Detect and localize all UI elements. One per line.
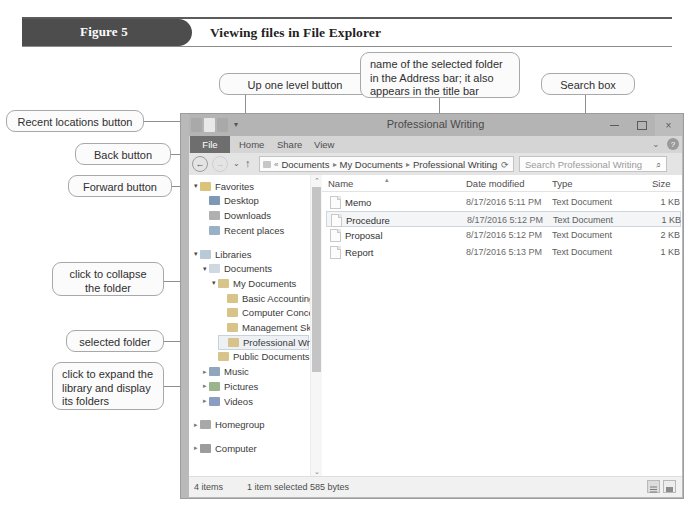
callout-text: Recent locations button xyxy=(18,116,133,128)
tree-item-libraries[interactable]: ▾Libraries xyxy=(191,247,309,262)
tree-item-public-documents[interactable]: Public Documents xyxy=(209,350,309,365)
content-area: ▾FavoritesDesktopDownloadsRecent places▾… xyxy=(189,175,682,477)
tab-share[interactable]: Share xyxy=(277,139,302,150)
close-button[interactable]: × xyxy=(655,114,682,136)
search-input[interactable]: Search Professional Writing ⌕ xyxy=(519,156,667,172)
forward-button[interactable]: → xyxy=(212,156,228,172)
callout-collapse-folder: click to collapse the folder xyxy=(52,262,164,296)
maximize-icon xyxy=(637,121,647,130)
tree-item-documents[interactable]: ▾Documents xyxy=(200,262,309,277)
expand-twisty-icon[interactable]: ▸ xyxy=(200,368,209,376)
callout-text: Back button xyxy=(94,149,152,161)
minimize-icon xyxy=(610,125,619,126)
status-item-count: 4 items xyxy=(194,482,223,492)
collapse-twisty-icon[interactable]: ▾ xyxy=(209,279,218,287)
text-document-icon xyxy=(330,196,341,209)
tree-item-recent-places[interactable]: Recent places xyxy=(200,223,309,238)
window-inner: ▾ Professional Writing × File Home Share… xyxy=(189,114,682,497)
file-size: 1 KB xyxy=(644,197,680,207)
tree-item-label: Documents xyxy=(224,263,272,274)
expand-twisty-icon[interactable]: ▸ xyxy=(200,382,209,390)
file-row[interactable]: Procedure8/17/2016 5:12 PMText Document1… xyxy=(326,211,681,227)
tab-view[interactable]: View xyxy=(314,139,334,150)
folder-icon xyxy=(227,323,238,332)
expand-twisty-icon[interactable]: ▸ xyxy=(191,421,200,429)
refresh-icon[interactable]: ⟳ xyxy=(501,160,509,170)
navigation-pane[interactable]: ▾FavoritesDesktopDownloadsRecent places▾… xyxy=(189,175,322,477)
downloads-icon xyxy=(209,211,220,220)
large-icons-view-icon[interactable] xyxy=(663,480,676,493)
search-icon: ⌕ xyxy=(656,160,661,171)
file-list-pane[interactable]: Name ▴ Date modified Type Size Memo8/17/… xyxy=(322,175,682,477)
status-selection-info: 1 item selected 585 bytes xyxy=(247,482,349,492)
chevron-down-icon[interactable]: ⌄ xyxy=(652,139,660,149)
tree-item-videos[interactable]: ▸Videos xyxy=(200,394,309,409)
tree-item-professional-writing[interactable]: Professional Writing xyxy=(218,335,309,350)
column-header-size[interactable]: Size xyxy=(652,178,670,189)
scrollbar-thumb[interactable] xyxy=(312,187,321,372)
tree-item-computer[interactable]: ▸Computer xyxy=(191,441,309,456)
tree-item-basic-accounting[interactable]: Basic Accounting xyxy=(218,291,309,306)
tab-home[interactable]: Home xyxy=(239,139,264,150)
collapse-twisty-icon[interactable]: ▾ xyxy=(200,265,209,273)
callout-back-button: Back button xyxy=(75,143,171,165)
window-controls: × xyxy=(601,114,682,136)
column-header-type[interactable]: Type xyxy=(552,178,573,189)
breadcrumb-my-documents[interactable]: My Documents xyxy=(340,159,403,170)
minimize-button[interactable] xyxy=(601,114,628,136)
back-button[interactable]: ← xyxy=(192,156,208,172)
expand-twisty-icon[interactable]: ▸ xyxy=(200,397,209,405)
tree-item-label: Libraries xyxy=(215,249,251,260)
breadcrumb-documents[interactable]: Documents xyxy=(281,159,329,170)
maximize-button[interactable] xyxy=(628,114,655,136)
file-type: Text Document xyxy=(552,247,612,257)
callout-forward-button: Forward button xyxy=(68,175,172,197)
breadcrumb-separator: ▸ xyxy=(406,160,410,169)
callout-up-one-level: Up one level button xyxy=(219,73,371,95)
file-size: 2 KB xyxy=(644,230,680,240)
file-row[interactable]: Report8/17/2016 5:13 PMText Document1 KB xyxy=(326,244,681,260)
callout-expand-library: click to expand the library and display … xyxy=(52,362,164,410)
up-one-level-button[interactable]: ↑ xyxy=(245,157,251,170)
tree-item-label: Favorites xyxy=(215,181,254,192)
folder-icon xyxy=(227,308,238,317)
view-buttons xyxy=(647,480,676,493)
tree-item-homegroup[interactable]: ▸Homegroup xyxy=(191,418,309,433)
tree-item-computer-concepts[interactable]: Computer Concepts xyxy=(218,306,309,321)
documents-icon xyxy=(209,264,220,273)
file-row[interactable]: Memo8/17/2016 5:11 PMText Document1 KB xyxy=(326,194,681,210)
help-icon[interactable]: ? xyxy=(667,138,679,150)
navigation-pane-scrollbar[interactable]: ⌃ ⌄ xyxy=(310,175,322,477)
tree-item-pictures[interactable]: ▸Pictures xyxy=(200,379,309,394)
address-dropdown-icon[interactable]: ⌄ xyxy=(489,161,496,170)
column-header-date-modified[interactable]: Date modified xyxy=(466,178,525,189)
breadcrumb-professional-writing[interactable]: Professional Writing xyxy=(413,159,497,170)
tree-item-label: Music xyxy=(224,366,249,377)
tab-file[interactable]: File xyxy=(190,136,230,153)
tree-item-desktop[interactable]: Desktop xyxy=(200,194,309,209)
collapse-twisty-icon[interactable]: ▾ xyxy=(191,182,200,190)
expand-twisty-icon[interactable]: ▸ xyxy=(191,444,200,452)
tree-item-label: Desktop xyxy=(224,195,259,206)
tree-item-downloads[interactable]: Downloads xyxy=(200,208,309,223)
file-explorer-window: ▾ Professional Writing × File Home Share… xyxy=(180,113,684,499)
tree-item-management-skills[interactable]: Management Skills xyxy=(218,320,309,335)
scroll-up-icon[interactable]: ⌃ xyxy=(311,175,322,186)
file-name: Memo xyxy=(345,197,371,208)
libraries-icon xyxy=(200,250,211,259)
address-bar[interactable]: « Documents ▸ My Documents ▸ Professiona… xyxy=(259,156,514,172)
recent-locations-button[interactable]: ⌄ xyxy=(233,159,240,168)
details-view-icon[interactable] xyxy=(647,480,660,493)
status-bar: 4 items 1 item selected 585 bytes xyxy=(189,476,682,497)
collapse-twisty-icon[interactable]: ▾ xyxy=(191,250,200,258)
column-header-name[interactable]: Name xyxy=(328,178,353,189)
file-name: Proposal xyxy=(345,230,383,241)
videos-icon xyxy=(209,397,220,406)
file-row[interactable]: Proposal8/17/2016 5:12 PMText Document2 … xyxy=(326,227,681,243)
callout-text: Search box xyxy=(560,79,616,91)
tree-item-favorites[interactable]: ▾Favorites xyxy=(191,179,309,194)
tree-item-label: Basic Accounting xyxy=(242,293,314,304)
folder-icon xyxy=(228,338,239,347)
tree-item-my-documents[interactable]: ▾My Documents xyxy=(209,276,309,291)
tree-item-music[interactable]: ▸Music xyxy=(200,364,309,379)
